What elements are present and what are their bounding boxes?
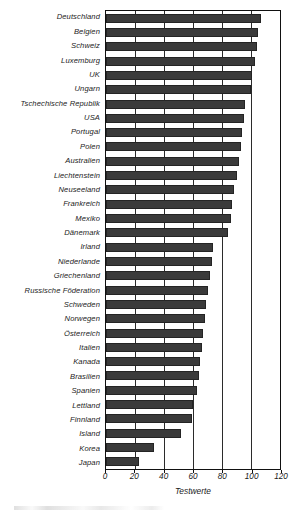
bar-row	[106, 140, 280, 154]
x-tick-label: 20	[130, 472, 139, 481]
bar	[106, 200, 232, 209]
x-axis-ticks: 020406080100120	[105, 470, 281, 484]
category-label: Russische Föderation	[0, 283, 103, 297]
bar-row	[106, 312, 280, 326]
bar-row	[106, 412, 280, 426]
category-label: Spanien	[0, 384, 103, 398]
category-label: Lettland	[0, 398, 103, 412]
category-label: Italien	[0, 341, 103, 355]
bar-row	[106, 54, 280, 68]
bar	[106, 300, 206, 309]
bar-row	[106, 383, 280, 397]
bar	[106, 85, 251, 94]
x-tick-label: 120	[274, 472, 288, 481]
bar-row	[106, 11, 280, 25]
category-label: Griechenland	[0, 269, 103, 283]
bar	[106, 142, 241, 151]
bar	[106, 71, 252, 80]
bar-row	[106, 197, 280, 211]
bar-row	[106, 226, 280, 240]
bar	[106, 157, 239, 166]
category-label: Korea	[0, 441, 103, 455]
category-label: Kanada	[0, 355, 103, 369]
bar-row	[106, 297, 280, 311]
category-label: Ungarn	[0, 82, 103, 96]
bar-row	[106, 154, 280, 168]
bar	[106, 114, 244, 123]
category-label: Österreich	[0, 326, 103, 340]
plot-area	[105, 10, 281, 470]
bar-row	[106, 369, 280, 383]
category-label: Neuseeland	[0, 183, 103, 197]
bar	[106, 457, 139, 466]
bar	[106, 414, 192, 423]
category-label: USA	[0, 111, 103, 125]
category-label: Irland	[0, 240, 103, 254]
bar-row	[106, 254, 280, 268]
bar	[106, 243, 213, 252]
x-axis-title: Testwerte	[105, 486, 281, 496]
bar	[106, 343, 202, 352]
bar	[106, 371, 199, 380]
category-label: Brasilien	[0, 369, 103, 383]
bar-row	[106, 397, 280, 411]
bar	[106, 214, 231, 223]
bar	[106, 271, 210, 280]
bar-row	[106, 168, 280, 182]
category-axis-labels: DeutschlandBelgienSchweizLuxemburgUKUnga…	[0, 10, 103, 470]
bar-row	[106, 183, 280, 197]
bar-row	[106, 355, 280, 369]
category-label: Polen	[0, 139, 103, 153]
bar-series	[106, 11, 280, 469]
bar-row	[106, 283, 280, 297]
bar	[106, 128, 242, 137]
category-label: Tschechische Republik	[0, 96, 103, 110]
category-label: Frankreich	[0, 197, 103, 211]
bar-row	[106, 111, 280, 125]
category-label: Japan	[0, 456, 103, 470]
category-label: Finnland	[0, 413, 103, 427]
x-tick-label: 60	[188, 472, 197, 481]
x-tick-label: 80	[218, 472, 227, 481]
bar-row	[106, 211, 280, 225]
x-tick-label: 100	[245, 472, 259, 481]
bar	[106, 100, 245, 109]
bar	[106, 400, 193, 409]
bar	[106, 357, 200, 366]
bar-row	[106, 25, 280, 39]
category-label: Island	[0, 427, 103, 441]
category-label: Schweden	[0, 298, 103, 312]
bar-row	[106, 68, 280, 82]
x-tick-label: 40	[159, 472, 168, 481]
chart-figure: DeutschlandBelgienSchweizLuxemburgUKUnga…	[0, 0, 291, 515]
bar	[106, 57, 255, 66]
bar	[106, 329, 203, 338]
bar	[106, 228, 228, 237]
category-label: Luxemburg	[0, 53, 103, 67]
bar-row	[106, 83, 280, 97]
bar-row	[106, 326, 280, 340]
bar-row	[106, 97, 280, 111]
category-label: Australien	[0, 154, 103, 168]
bar	[106, 42, 257, 51]
bar	[106, 14, 261, 23]
bar	[106, 28, 258, 37]
bar-row	[106, 426, 280, 440]
category-label: Mexiko	[0, 211, 103, 225]
bar-row	[106, 440, 280, 454]
bar	[106, 257, 212, 266]
category-label: Belgien	[0, 24, 103, 38]
category-label: Dänemark	[0, 226, 103, 240]
bar	[106, 171, 237, 180]
bar-row	[106, 126, 280, 140]
category-label: Portugal	[0, 125, 103, 139]
bar	[106, 286, 208, 295]
bar	[106, 185, 234, 194]
bar	[106, 314, 205, 323]
bar-row	[106, 455, 280, 469]
x-tick-label: 0	[103, 472, 108, 481]
scan-artifact	[14, 506, 164, 510]
bar-row	[106, 269, 280, 283]
bar	[106, 429, 181, 438]
category-label: Norwegen	[0, 312, 103, 326]
